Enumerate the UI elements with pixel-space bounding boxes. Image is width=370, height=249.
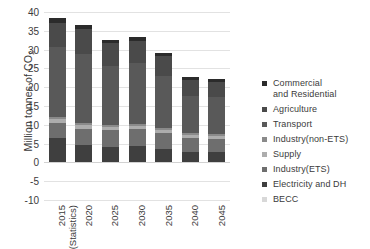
plot-area: 4035302520151050-5-10 2015(Statistics)20… [44,12,230,200]
chart-legend: Commercialand ResidentialAgricultureTran… [262,78,370,209]
legend-swatch-icon [262,197,267,202]
y-tick-label: -5 [30,176,39,187]
legend-label: Industry(ETS) [273,164,330,175]
legend-label: Electricity and DH [273,179,346,190]
bar-segment[interactable] [129,63,146,124]
bar-segment[interactable] [102,147,119,163]
legend-item[interactable]: Commercialand Residential [262,78,370,100]
legend-item[interactable]: Electricity and DH [262,179,370,190]
bar-segment[interactable] [129,146,146,163]
y-tick-label: 10 [28,119,39,130]
bar-segment[interactable] [208,152,225,162]
x-tick-label-line: 2020 [84,205,95,226]
bar-group[interactable]: 2045 [208,12,225,200]
y-tick-label: 35 [28,25,39,36]
bar-stack [129,37,146,162]
y-tick-label: 30 [28,44,39,55]
x-tick-label: 2040 [190,205,201,226]
legend-swatch-icon [262,167,267,172]
x-tick-label-line: 2030 [137,205,148,226]
y-tick-label: -10 [25,195,39,206]
legend-swatch-icon [262,122,267,127]
bar-segment[interactable] [129,129,146,146]
bar-stack [102,40,119,163]
bar-segment[interactable] [182,138,199,152]
bar-segment[interactable] [102,43,119,66]
legend-label: Transport [273,119,312,130]
bar-stack [182,77,199,162]
bar-stack [75,25,92,162]
bar-segment[interactable] [155,76,172,128]
x-tick-label-line: 2025 [110,205,121,226]
legend-item[interactable]: Supply [262,149,370,160]
x-tick-label-line: 2040 [190,205,201,226]
bars-layer: 2015(Statistics)202020252030203520402045 [44,12,230,200]
bar-stack [155,53,172,163]
legend-label: Commercialand Residential [273,78,337,100]
bar-segment[interactable] [155,149,172,163]
gridline--10: -10 [44,200,230,201]
legend-label: Supply [273,149,301,160]
legend-swatch-icon [262,152,267,157]
bar-group[interactable]: 2040 [182,12,199,200]
legend-item[interactable]: Transport [262,119,370,130]
legend-label: BECC [273,194,298,205]
bar-group[interactable]: 2015(Statistics) [49,12,66,200]
bar-segment[interactable] [49,123,66,138]
bar-segment[interactable] [208,82,225,97]
legend-swatch-icon [262,107,267,112]
bar-group[interactable]: 2025 [102,12,119,200]
bar-segment[interactable] [49,138,66,162]
y-tick-label: 0 [33,157,39,168]
x-tick-label-line: (Statistics) [68,205,79,249]
bar-segment[interactable] [182,152,199,163]
x-tick-label: 2020 [84,205,95,226]
y-tick-label: 20 [28,82,39,93]
x-tick-label: 2030 [137,205,148,226]
bar-segment[interactable] [208,139,225,153]
x-tick-label: 2045 [217,205,228,226]
bar-segment[interactable] [75,29,92,54]
x-tick-label-line: 2045 [217,205,228,226]
legend-label: Agriculture [273,104,317,115]
bar-segment[interactable] [102,66,119,125]
legend-item[interactable]: Agriculture [262,104,370,115]
bar-group[interactable]: 2030 [129,12,146,200]
bar-segment[interactable] [75,129,92,146]
x-tick-label: 2015(Statistics) [57,205,78,249]
bar-segment[interactable] [155,56,172,76]
bar-segment[interactable] [182,96,199,134]
x-tick-label-line: 2035 [164,205,175,226]
bar-segment[interactable] [49,47,66,117]
bar-stack [49,18,66,162]
bar-group[interactable]: 2020 [75,12,92,200]
legend-swatch-icon [262,182,267,187]
bar-segment[interactable] [75,54,92,122]
bar-segment[interactable] [49,23,66,47]
y-tick-label: 5 [33,138,39,149]
legend-item[interactable]: Industry(non-ETS) [262,134,370,145]
y-tick-label: 25 [28,63,39,74]
x-tick-label: 2025 [110,205,121,226]
x-tick-label: 2035 [164,205,175,226]
bar-segment[interactable] [129,41,146,63]
y-tick-label: 15 [28,101,39,112]
legend-swatch-icon [262,137,267,142]
legend-swatch-icon [262,81,267,86]
bar-segment[interactable] [75,145,92,162]
legend-item[interactable]: BECC [262,194,370,205]
legend-label: Industry(non-ETS) [273,134,348,145]
bar-segment[interactable] [182,80,199,95]
legend-item[interactable]: Industry(ETS) [262,164,370,175]
bar-segment[interactable] [208,97,225,134]
bar-group[interactable]: 2035 [155,12,172,200]
bar-segment[interactable] [155,133,172,149]
bar-segment[interactable] [102,130,119,146]
bar-stack [208,79,225,162]
y-tick-label: 40 [28,7,39,18]
